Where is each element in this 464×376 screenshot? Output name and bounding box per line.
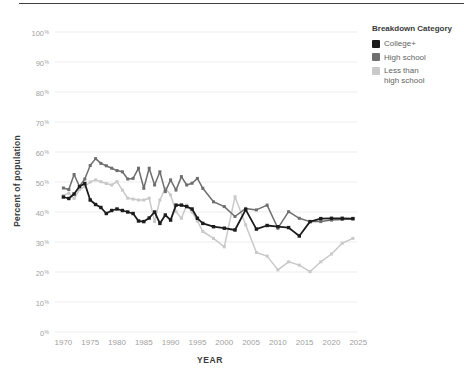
legend-title: Breakdown Category <box>372 24 460 33</box>
data-point-college-1995 <box>196 217 199 220</box>
data-point-college-2004 <box>244 208 247 211</box>
x-tick-label-2000: 2000 <box>210 338 238 348</box>
data-point-college-1983 <box>131 212 134 215</box>
data-point-college-2006 <box>255 227 258 230</box>
data-point-high-school-1981 <box>121 170 124 173</box>
data-point-college-1976 <box>94 203 97 206</box>
y-tick-label-80: 80% <box>15 87 49 99</box>
legend-label-less-than-high-school: Less than high school <box>384 66 436 85</box>
data-point-less-than-high-school-2016 <box>309 270 312 273</box>
data-point-less-than-high-school-1996 <box>201 230 204 233</box>
legend: Breakdown Category College+High schoolLe… <box>372 24 460 89</box>
x-tick-label-1975: 1975 <box>76 338 104 348</box>
data-point-less-than-high-school-2024 <box>351 237 354 240</box>
data-point-college-1986 <box>148 216 151 219</box>
data-point-less-than-high-school-1979 <box>110 184 113 187</box>
x-tick-label-2020: 2020 <box>317 338 345 348</box>
data-point-college-1977 <box>99 206 102 209</box>
data-point-less-than-high-school-1978 <box>105 182 108 185</box>
legend-item-college: College+ <box>372 39 460 49</box>
data-point-high-school-2018 <box>319 220 322 223</box>
data-point-college-2024 <box>351 217 354 220</box>
x-tick-label-1995: 1995 <box>183 338 211 348</box>
data-point-college-2002 <box>233 228 236 231</box>
data-point-less-than-high-school-1977 <box>99 180 102 183</box>
data-point-high-school-1972 <box>73 173 76 176</box>
data-point-college-1981 <box>121 209 124 212</box>
data-point-less-than-high-school-1980 <box>116 180 119 183</box>
data-point-high-school-1995 <box>196 177 199 180</box>
data-point-less-than-high-school-2004 <box>244 223 247 226</box>
y-tick-label-100: 100% <box>15 27 49 39</box>
data-point-less-than-high-school-1984 <box>137 199 140 202</box>
data-point-less-than-high-school-2010 <box>276 268 279 271</box>
data-point-college-2010 <box>276 225 279 228</box>
data-point-high-school-2002 <box>234 215 237 218</box>
data-point-less-than-high-school-1988 <box>158 199 161 202</box>
x-tick-label-1980: 1980 <box>103 338 131 348</box>
data-point-college-1978 <box>105 212 108 215</box>
legend-label-high-school: High school <box>384 53 426 63</box>
data-point-high-school-1991 <box>175 189 178 192</box>
legend-swatch-high-school <box>372 53 380 61</box>
data-point-high-school-1996 <box>201 187 204 190</box>
x-tick-label-2005: 2005 <box>237 338 265 348</box>
data-point-high-school-1976 <box>94 157 97 160</box>
data-point-high-school-1979 <box>110 167 113 170</box>
data-point-high-school-1975 <box>89 164 92 167</box>
y-axis-title: Percent of population <box>12 121 22 241</box>
data-point-college-1979 <box>110 209 113 212</box>
legend-swatch-college <box>372 40 380 48</box>
data-point-college-1998 <box>212 225 215 228</box>
data-point-high-school-1987 <box>153 184 156 187</box>
data-point-high-school-2006 <box>255 208 258 211</box>
chart-page: { "header": { "top_rule_color": "#3f3f3f… <box>0 0 464 376</box>
data-point-college-1993 <box>185 205 188 208</box>
data-point-college-1992 <box>180 203 183 206</box>
x-tick-label-2010: 2010 <box>264 338 292 348</box>
x-tick-label-1990: 1990 <box>157 338 185 348</box>
data-point-college-2014 <box>298 234 301 237</box>
data-point-high-school-1989 <box>164 190 167 193</box>
data-point-less-than-high-school-1971 <box>67 192 70 195</box>
data-point-college-1988 <box>158 222 161 225</box>
data-point-less-than-high-school-2000 <box>223 245 226 248</box>
data-point-high-school-1992 <box>180 175 183 178</box>
data-point-less-than-high-school-2006 <box>255 251 258 254</box>
data-point-high-school-1990 <box>169 178 172 181</box>
legend-label-college: College+ <box>384 39 416 49</box>
data-point-college-1982 <box>126 210 129 213</box>
data-point-college-2012 <box>287 226 290 229</box>
data-point-less-than-high-school-2008 <box>266 255 269 258</box>
data-point-college-1994 <box>190 207 193 210</box>
data-point-college-1975 <box>89 198 92 201</box>
data-point-college-1991 <box>174 203 177 206</box>
data-point-less-than-high-school-2020 <box>330 253 333 256</box>
data-point-college-1973 <box>78 185 81 188</box>
y-tick-label-0: 0% <box>15 327 49 339</box>
data-point-high-school-1974 <box>83 178 86 181</box>
x-tick-label-2025: 2025 <box>344 338 372 348</box>
data-point-high-school-1984 <box>137 167 140 170</box>
data-point-high-school-1980 <box>116 169 119 172</box>
data-point-less-than-high-school-1982 <box>126 197 129 200</box>
data-point-less-than-high-school-1975 <box>89 181 92 184</box>
data-point-college-1987 <box>153 210 156 213</box>
data-point-high-school-2008 <box>266 204 269 207</box>
data-point-high-school-1970 <box>62 187 65 190</box>
data-point-less-than-high-school-1985 <box>142 199 145 202</box>
data-point-high-school-2012 <box>287 210 290 213</box>
data-point-less-than-high-school-1976 <box>94 178 97 181</box>
data-point-college-2008 <box>265 224 268 227</box>
data-point-less-than-high-school-1992 <box>180 217 183 220</box>
data-point-high-school-1994 <box>191 182 194 185</box>
data-point-college-2016 <box>308 220 311 223</box>
data-point-high-school-1977 <box>99 162 102 165</box>
data-point-college-1990 <box>169 218 172 221</box>
data-point-high-school-2014 <box>298 217 301 220</box>
y-tick-label-90: 90% <box>15 57 49 69</box>
data-point-less-than-high-school-1981 <box>121 189 124 192</box>
x-axis-title: YEAR <box>170 355 250 365</box>
data-point-high-school-1971 <box>67 188 70 191</box>
data-point-less-than-high-school-2018 <box>319 260 322 263</box>
